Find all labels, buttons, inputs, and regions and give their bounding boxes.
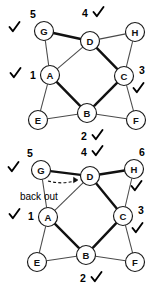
edge-A-E xyxy=(39,226,45,253)
check-icon xyxy=(134,83,144,92)
node-label-E: E xyxy=(34,257,40,268)
order-number-1: 1 xyxy=(30,69,36,81)
edge-B-C xyxy=(94,83,118,107)
edge-A-E xyxy=(40,84,47,111)
order-number-6: 6 xyxy=(139,146,145,158)
node-label-H: H xyxy=(131,164,138,175)
annotation-layer-bottom: back out xyxy=(20,177,78,201)
edge-E-B xyxy=(46,256,76,260)
edge-B-C xyxy=(93,223,117,248)
node-label-D: D xyxy=(87,36,94,47)
check-icon xyxy=(94,7,104,16)
edge-C-H xyxy=(125,178,132,206)
node-label-F: F xyxy=(133,115,139,126)
node-label-C: C xyxy=(120,211,127,222)
edge-A-B xyxy=(55,224,80,249)
edge-G-A xyxy=(45,40,48,65)
check-icon xyxy=(92,272,102,281)
back-out-label: back out xyxy=(20,191,58,202)
node-layer-top: GDHACEBF xyxy=(29,22,146,130)
edge-G-D xyxy=(53,33,80,39)
edge-C-H xyxy=(126,41,132,67)
edge-C-F xyxy=(125,225,132,253)
node-label-G: G xyxy=(37,165,44,176)
order-number-5: 5 xyxy=(27,147,33,159)
node-label-A: A xyxy=(47,70,54,81)
check-icon xyxy=(132,181,142,190)
edge-D-H xyxy=(99,170,124,174)
order-number-1: 1 xyxy=(28,210,34,222)
edge-B-F xyxy=(96,114,126,118)
check-icon xyxy=(93,146,103,155)
graph-panel-bottom: back out GDHACEBF 546132 xyxy=(0,144,155,287)
node-label-D: D xyxy=(87,171,94,182)
edge-D-C xyxy=(96,183,117,208)
check-icon xyxy=(10,22,20,31)
edge-D-C xyxy=(97,48,118,69)
edge-A-D xyxy=(55,183,83,211)
edge-A-D xyxy=(57,47,83,69)
node-label-B: B xyxy=(84,108,91,119)
order-number-3: 3 xyxy=(138,204,144,216)
order-number-4: 4 xyxy=(81,146,87,158)
node-layer-bottom: GDHACEBF xyxy=(28,160,145,272)
node-label-G: G xyxy=(40,26,47,37)
node-label-H: H xyxy=(132,27,139,38)
edge-B-F xyxy=(95,256,125,260)
check-icon xyxy=(93,130,103,139)
node-label-E: E xyxy=(35,115,41,126)
order-number-2: 2 xyxy=(81,130,87,142)
graph-svg-bottom: back out GDHACEBF 546132 xyxy=(0,144,155,287)
order-number-2: 2 xyxy=(80,272,86,284)
check-icon xyxy=(9,162,19,171)
graph-svg-top: GDHACEBF 54132 xyxy=(0,0,155,144)
edge-D-H xyxy=(99,34,125,39)
order-number-3: 3 xyxy=(139,64,145,76)
node-label-C: C xyxy=(121,71,128,82)
graph-panel-top: GDHACEBF 54132 xyxy=(0,0,155,144)
traversal-figure: GDHACEBF 54132 back out GDHACEBF 546132 xyxy=(0,0,155,287)
order-number-4: 4 xyxy=(82,7,88,19)
node-label-B: B xyxy=(83,250,90,261)
edge-E-B xyxy=(47,114,77,118)
edge-A-B xyxy=(57,82,81,106)
check-icon xyxy=(133,223,143,232)
node-label-A: A xyxy=(45,212,52,223)
edge-G-D xyxy=(50,171,80,175)
edge-C-F xyxy=(126,85,133,111)
check-icon xyxy=(10,209,20,218)
order-number-5: 5 xyxy=(30,8,36,20)
node-label-F: F xyxy=(132,257,138,268)
check-icon xyxy=(11,68,21,77)
back-out-arrowhead xyxy=(74,177,79,183)
